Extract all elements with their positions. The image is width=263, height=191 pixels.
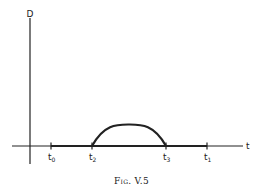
x-axis-label: t — [246, 141, 250, 151]
diagram-canvas: D t t0 t2 t3 t1 — [0, 0, 263, 191]
tick-label-t0: t0 — [48, 152, 56, 163]
tick-label-t1: t1 — [204, 152, 212, 163]
hump-curve — [92, 124, 166, 146]
y-axis-label: D — [27, 9, 34, 19]
tick-label-t3: t3 — [163, 152, 171, 163]
figure-caption: Fig. V.5 — [0, 176, 263, 186]
tick-label-t2: t2 — [89, 152, 97, 163]
